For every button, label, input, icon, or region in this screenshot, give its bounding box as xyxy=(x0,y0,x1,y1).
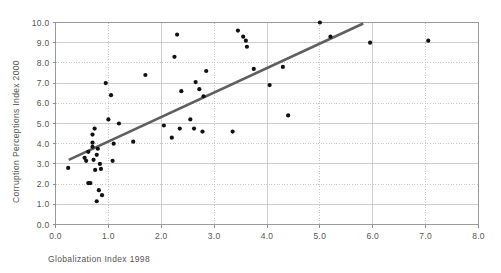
data-point xyxy=(175,33,179,37)
x-tick-label: 0.0 xyxy=(49,231,62,241)
data-point xyxy=(281,65,285,69)
data-point xyxy=(192,126,196,130)
x-tick-label: 3.0 xyxy=(208,231,221,241)
data-point xyxy=(131,140,135,144)
data-point xyxy=(201,94,205,98)
data-point xyxy=(268,83,272,87)
data-point xyxy=(86,150,90,154)
x-tick-label: 6.0 xyxy=(366,231,379,241)
x-tick-label: 7.0 xyxy=(419,231,432,241)
trend-line xyxy=(69,24,364,160)
y-tick-label: 5.0 xyxy=(37,119,50,129)
data-point xyxy=(111,159,115,163)
chart-canvas: 0.01.02.03.04.05.06.07.08.0 0.01.02.03.0… xyxy=(0,0,501,273)
data-point xyxy=(170,136,174,140)
data-point xyxy=(286,113,290,117)
y-tick-label: 1.0 xyxy=(37,199,50,209)
y-tick-label: 3.0 xyxy=(37,159,50,169)
x-axis-tick-labels: 0.01.02.03.04.05.06.07.08.0 xyxy=(49,231,485,241)
data-point xyxy=(204,69,208,73)
data-point xyxy=(95,153,99,157)
data-point xyxy=(197,87,201,91)
data-point xyxy=(236,28,240,32)
y-axis-title: Corruption Perceptions Index 2000 xyxy=(11,60,21,203)
data-point xyxy=(96,147,100,151)
x-tick-label: 8.0 xyxy=(472,231,485,241)
data-point xyxy=(245,45,249,49)
data-point xyxy=(95,199,99,203)
scatter-plot-figure: 0.01.02.03.04.05.06.07.08.0 0.01.02.03.0… xyxy=(0,0,501,273)
data-point xyxy=(194,80,198,84)
data-point xyxy=(200,129,204,133)
data-point xyxy=(109,93,113,97)
data-point xyxy=(93,168,97,172)
data-point xyxy=(244,39,248,43)
data-point xyxy=(143,73,147,77)
data-point xyxy=(117,121,121,125)
y-tick-label: 10.0 xyxy=(32,18,50,28)
data-point xyxy=(106,117,110,121)
x-tick-label: 2.0 xyxy=(155,231,168,241)
data-point xyxy=(112,142,116,146)
data-point xyxy=(188,117,192,121)
data-point xyxy=(318,20,322,24)
data-points xyxy=(66,20,430,203)
data-point xyxy=(93,126,97,130)
data-point xyxy=(100,193,104,197)
data-point xyxy=(88,181,92,185)
y-tick-label: 7.0 xyxy=(37,78,50,88)
y-tick-label: 2.0 xyxy=(37,179,50,189)
y-tick-label: 6.0 xyxy=(37,98,50,108)
x-tick-label: 5.0 xyxy=(314,231,327,241)
y-axis-tick-labels: 0.01.02.03.04.05.06.07.08.09.010.0 xyxy=(32,18,50,230)
y-tick-label: 9.0 xyxy=(37,38,50,48)
data-point xyxy=(178,126,182,130)
data-point xyxy=(231,129,235,133)
data-point xyxy=(172,55,176,59)
data-point xyxy=(328,35,332,39)
data-point xyxy=(104,81,108,85)
data-point xyxy=(97,188,101,192)
x-axis-title: Globalization Index 1998 xyxy=(48,254,150,264)
data-point xyxy=(91,158,95,162)
y-tick-label: 8.0 xyxy=(37,58,50,68)
data-point xyxy=(252,67,256,71)
data-point xyxy=(162,123,166,127)
x-tick-label: 1.0 xyxy=(102,231,115,241)
data-point xyxy=(98,162,102,166)
y-tick-label: 4.0 xyxy=(37,139,50,149)
x-tick-label: 4.0 xyxy=(261,231,274,241)
y-tick-label: 0.0 xyxy=(37,220,50,230)
data-point xyxy=(179,89,183,93)
data-point xyxy=(90,145,94,149)
data-point xyxy=(426,39,430,43)
data-point xyxy=(368,41,372,45)
tick-marks xyxy=(53,23,479,228)
data-point xyxy=(90,141,94,145)
data-point xyxy=(99,167,103,171)
data-point xyxy=(84,159,88,163)
data-point xyxy=(66,166,70,170)
data-point xyxy=(241,35,245,39)
data-point xyxy=(90,133,94,137)
